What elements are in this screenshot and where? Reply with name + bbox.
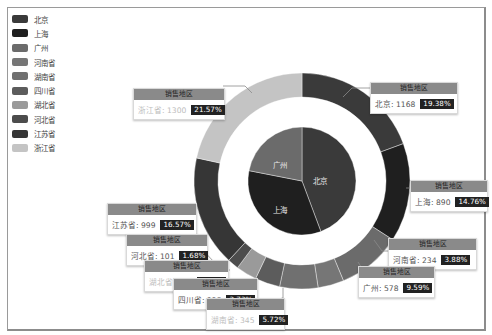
data-label-header: 销售地区 bbox=[207, 299, 284, 310]
data-label-percent: 3.88% bbox=[441, 255, 470, 265]
slice-湖南省[interactable] bbox=[280, 263, 319, 289]
data-label-shanghai: 销售地区 上海: 89014.76% bbox=[410, 180, 488, 212]
legend-swatch bbox=[12, 29, 28, 37]
legend-item-sichuan[interactable]: 四川省 bbox=[12, 83, 55, 97]
legend-label: 四川省 bbox=[34, 85, 55, 96]
legend-label: 浙江省 bbox=[34, 142, 55, 153]
legend-swatch bbox=[12, 44, 28, 52]
data-label-value: 湖南省: 345 bbox=[211, 314, 254, 325]
legend-label: 北京 bbox=[34, 14, 48, 25]
legend-item-shanghai[interactable]: 上海 bbox=[12, 26, 55, 40]
legend-swatch bbox=[12, 58, 28, 66]
data-label-header: 销售地区 bbox=[359, 267, 434, 278]
legend-swatch bbox=[12, 72, 28, 80]
legend-item-jiangsu[interactable]: 江苏省 bbox=[12, 126, 55, 140]
legend-swatch bbox=[12, 144, 28, 152]
data-label-header: 销售地区 bbox=[108, 204, 196, 215]
data-label-value: 北京: 1168 bbox=[375, 98, 415, 109]
slice-上海[interactable] bbox=[373, 144, 410, 240]
legend-label: 河南省 bbox=[34, 57, 55, 68]
legend-swatch bbox=[12, 87, 28, 95]
inner-label-beijing: 北京 bbox=[313, 176, 328, 186]
legend-swatch bbox=[12, 115, 28, 123]
data-label-hunan: 销售地区 湖南省: 3455.72% bbox=[206, 298, 285, 330]
data-label-header: 销售地区 bbox=[145, 261, 228, 272]
data-label-value: 浙江省: 1300 bbox=[138, 104, 186, 115]
data-label-percent: 9.59% bbox=[403, 283, 432, 293]
legend-swatch bbox=[12, 130, 28, 138]
inner-pie bbox=[248, 127, 356, 235]
legend-item-hunan[interactable]: 湖南省 bbox=[12, 69, 55, 83]
legend-swatch bbox=[12, 101, 28, 109]
data-label-percent: 5.72% bbox=[259, 315, 288, 325]
data-label-percent: 1.68% bbox=[179, 251, 208, 261]
data-label-zhejiang: 销售地区 浙江省: 130021.57% bbox=[133, 88, 225, 120]
legend-item-hubei[interactable]: 湖北省 bbox=[12, 98, 55, 112]
data-label-value: 广州: 578 bbox=[363, 282, 398, 293]
legend-item-henan[interactable]: 河南省 bbox=[12, 55, 55, 69]
legend-item-hebei[interactable]: 河北省 bbox=[12, 112, 55, 126]
inner-label-shanghai: 上海 bbox=[273, 205, 288, 215]
data-label-percent: 14.76% bbox=[455, 197, 488, 207]
data-label-percent: 16.57% bbox=[160, 220, 193, 230]
legend-label: 河北省 bbox=[34, 114, 55, 125]
legend-label: 广州 bbox=[34, 42, 48, 53]
data-label-percent: 19.38% bbox=[420, 99, 453, 109]
data-label-header: 销售地区 bbox=[134, 89, 224, 100]
data-label-percent: 21.57% bbox=[191, 105, 224, 115]
data-label-header: 销售地区 bbox=[411, 181, 487, 192]
data-label-value: 上海: 890 bbox=[415, 196, 450, 207]
legend-label: 湖南省 bbox=[34, 71, 55, 82]
legend: 北京 上海 广州 河南省 湖南省 四川省 湖北省 河北省 江苏省 浙江省 bbox=[12, 12, 55, 155]
inner-label-guangzhou: 广州 bbox=[273, 160, 287, 170]
legend-item-beijing[interactable]: 北京 bbox=[12, 12, 55, 26]
legend-item-zhejiang[interactable]: 浙江省 bbox=[12, 141, 55, 155]
data-label-value: 河南省: 234 bbox=[393, 254, 436, 265]
data-label-header: 销售地区 bbox=[174, 279, 257, 290]
data-label-beijing: 销售地区 北京: 116819.38% bbox=[370, 82, 458, 114]
legend-item-guangzhou[interactable]: 广州 bbox=[12, 41, 55, 55]
legend-swatch bbox=[12, 15, 28, 23]
data-label-header: 销售地区 bbox=[389, 239, 476, 250]
legend-label: 湖北省 bbox=[34, 99, 55, 110]
data-label-header: 销售地区 bbox=[371, 83, 457, 94]
data-label-header: 销售地区 bbox=[127, 235, 207, 246]
legend-label: 江苏省 bbox=[34, 128, 55, 139]
data-label-value: 江苏省: 999 bbox=[112, 219, 155, 230]
legend-label: 上海 bbox=[34, 28, 48, 39]
data-label-jiangsu: 销售地区 江苏省: 99916.57% bbox=[107, 203, 197, 235]
data-label-guangzhou: 销售地区 广州: 5789.59% bbox=[358, 266, 435, 298]
